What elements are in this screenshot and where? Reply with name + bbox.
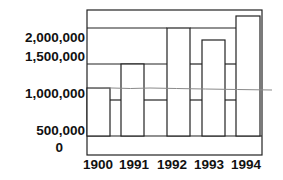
x-tick-label: 1993: [189, 158, 229, 172]
y-tick-label: 500,000: [36, 124, 85, 138]
bar-1994: [236, 16, 260, 136]
y-tick-label: 1,500,000: [25, 50, 85, 64]
x-tick-label: 1900: [78, 158, 118, 172]
y-tick-label: 1,000,000: [25, 87, 85, 101]
bar-1993: [202, 40, 225, 136]
y-tick-label: 0: [55, 141, 63, 155]
bar-1992: [167, 28, 190, 136]
bar-1900: [87, 88, 110, 136]
x-tick-label: 1992: [152, 158, 192, 172]
y-tick-label: 2,000,000: [25, 31, 85, 45]
bar-1991: [121, 64, 144, 136]
x-tick-label: 1991: [114, 158, 154, 172]
x-tick-label: 1994: [226, 158, 266, 172]
